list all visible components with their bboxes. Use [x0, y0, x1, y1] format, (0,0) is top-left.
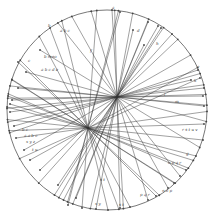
rim-tick — [11, 78, 13, 80]
rim-tick — [163, 27, 165, 29]
rim-tick — [202, 139, 204, 141]
chord-label: p q r — [140, 192, 151, 197]
rim-tick — [197, 69, 199, 71]
chord-label: m — [175, 99, 179, 104]
chord-label: g — [186, 151, 189, 156]
chord-label: h — [156, 41, 159, 46]
rim-tick — [57, 22, 59, 24]
chord-label: s t — [119, 202, 124, 207]
rim-tick — [192, 160, 194, 162]
rim-tick — [206, 111, 208, 113]
rim-tick — [25, 71, 27, 73]
rim-tick — [54, 194, 56, 196]
rim-tick — [9, 132, 11, 134]
chord-label: o p q r — [168, 160, 182, 165]
rim-tick — [203, 105, 205, 107]
chord-lines — [7, 10, 207, 210]
rim-tick — [17, 61, 19, 63]
chord-through-upper-focus — [90, 30, 133, 209]
rim-tick — [61, 20, 63, 22]
rim-tick — [72, 203, 74, 205]
chord-label: x y — [95, 201, 102, 206]
chord-label: t u — [32, 147, 38, 152]
rim-tick — [39, 49, 41, 51]
rim-tick — [81, 207, 83, 209]
rim-tick — [13, 125, 15, 127]
rim-tick — [75, 197, 77, 199]
rim-tick — [19, 59, 21, 61]
rim-tick — [143, 44, 145, 46]
chord-label: f — [89, 48, 93, 53]
rim-tick — [199, 77, 201, 79]
rim-tick — [107, 209, 109, 211]
rim-tick — [96, 10, 98, 12]
rim-tick — [206, 104, 208, 106]
rim-tick — [11, 99, 13, 101]
chord-label: n o p — [162, 188, 173, 193]
rim-tick — [185, 169, 187, 171]
rim-tick — [129, 206, 131, 208]
rim-tick — [195, 155, 197, 157]
rim-tick — [147, 21, 149, 23]
rim-tick — [205, 121, 207, 123]
chord-through-upper-focus — [91, 11, 148, 200]
rim-tick — [71, 15, 73, 17]
rim-tick — [148, 18, 150, 20]
chord-label: b c — [22, 127, 29, 132]
rim-tick — [17, 87, 19, 89]
rim-tick — [132, 29, 134, 31]
diagram-canvas: aba b cfb mnoa b c d ecdheklmr s t u vgo… — [0, 0, 213, 220]
chord-through-lower-focus — [39, 36, 130, 207]
chord-label: r s t u v — [182, 127, 198, 132]
rim-tick — [15, 137, 17, 139]
rim-tick — [9, 111, 11, 113]
rim-tick — [157, 25, 159, 27]
chord-through-upper-focus — [59, 26, 158, 198]
rim-tick — [57, 184, 59, 186]
rim-tick — [202, 95, 204, 97]
rim-tick — [203, 123, 205, 125]
rim-tick — [199, 147, 201, 149]
rim-tick — [9, 85, 11, 87]
rim-tick — [38, 182, 40, 184]
rim-tick — [95, 208, 97, 210]
rim-tick — [90, 10, 92, 12]
chord-label: c — [28, 58, 31, 63]
chord-through-upper-focus — [58, 28, 164, 185]
rim-tick — [29, 159, 31, 161]
chord-label: a a b c — [24, 133, 38, 138]
rim-tick — [179, 175, 181, 177]
chord-label: a — [112, 5, 115, 10]
rim-tick — [7, 121, 9, 123]
rim-tick — [39, 169, 41, 171]
chord-through-lower-focus — [8, 94, 186, 170]
rim-tick — [7, 93, 9, 95]
rim-tick — [7, 95, 9, 97]
rim-tick — [123, 208, 125, 210]
chord-label: s t — [100, 177, 105, 182]
rim-tick — [23, 149, 25, 151]
chord-through-lower-focus — [82, 11, 97, 208]
rim-tick — [19, 158, 21, 160]
rim-tick — [118, 208, 120, 210]
rim-tick — [158, 194, 160, 196]
rim-tick — [67, 204, 69, 206]
rim-tick — [173, 182, 175, 184]
rim-tick — [187, 167, 189, 169]
rim-tick — [203, 84, 205, 86]
chord-diagram: aba b cfb mnoa b c d ecdheklmr s t u vgo… — [0, 0, 213, 220]
rim-tick — [155, 195, 157, 197]
rim-tick — [205, 94, 207, 96]
rim-tick — [9, 103, 11, 105]
rim-tick — [160, 27, 162, 29]
rim-tick — [67, 201, 69, 203]
chord-label: k — [194, 78, 197, 83]
rim-tick — [203, 87, 205, 89]
chord-through-upper-focus — [76, 19, 149, 198]
rim-tick — [8, 130, 10, 132]
rim-tick — [58, 197, 60, 199]
chord-through-upper-focus — [10, 70, 198, 133]
rim-tick — [190, 79, 192, 81]
chord-through-upper-focus — [115, 10, 120, 208]
chord-label: d — [137, 28, 140, 33]
